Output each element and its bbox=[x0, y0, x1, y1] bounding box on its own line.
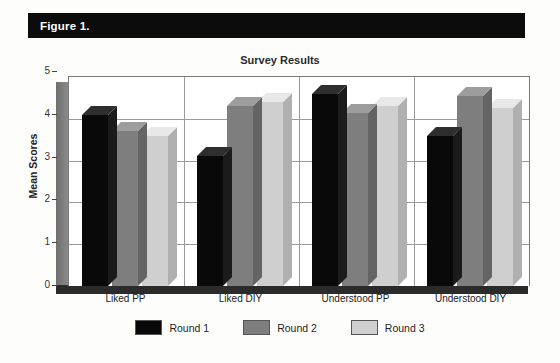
bar-side-face bbox=[168, 127, 177, 286]
legend-swatch bbox=[135, 320, 162, 335]
bar-front-face bbox=[197, 156, 223, 286]
legend-label: Round 2 bbox=[277, 322, 317, 334]
bar-side-face bbox=[513, 99, 522, 286]
chart-plot-wrapper: Mean Scores 012345 Liked PPLiked DIYUnde… bbox=[0, 0, 560, 363]
bar-side-face bbox=[108, 106, 117, 286]
x-axis-category-label: Understood PP bbox=[298, 293, 413, 304]
y-axis-tick-label: 5 bbox=[30, 65, 50, 76]
bar-side-face bbox=[483, 87, 492, 286]
y-axis-tick-label: 2 bbox=[30, 193, 50, 204]
y-axis-tick-mark bbox=[52, 157, 57, 158]
legend-label: Round 3 bbox=[385, 322, 425, 334]
category-separator bbox=[184, 77, 185, 286]
legend-swatch bbox=[351, 320, 378, 335]
legend-label: Round 1 bbox=[169, 322, 209, 334]
bar-side-face bbox=[368, 104, 377, 286]
y-axis-tick-label: 3 bbox=[30, 151, 50, 162]
y-axis-tick-label: 1 bbox=[30, 236, 50, 247]
y-axis-tick-mark bbox=[52, 71, 57, 72]
plot-area bbox=[68, 76, 530, 286]
y-axis-tick-label: 0 bbox=[30, 279, 50, 290]
bar-side-face bbox=[223, 147, 232, 286]
bar-round-1-liked-pp bbox=[82, 115, 108, 286]
legend-item[interactable]: Round 1 bbox=[135, 320, 209, 335]
y-axis-tick-mark bbox=[52, 242, 57, 243]
y-axis-tick-label: 4 bbox=[30, 108, 50, 119]
bar-round-1-liked-diy bbox=[197, 156, 223, 286]
x-axis-category-label: Understood DIY bbox=[413, 293, 528, 304]
y-axis-tick-mark bbox=[52, 199, 57, 200]
bar-round-1-understood-pp bbox=[312, 94, 338, 286]
bar-front-face bbox=[82, 115, 108, 286]
legend-swatch bbox=[243, 320, 270, 335]
bar-side-face bbox=[338, 85, 347, 286]
x-axis-category-label: Liked DIY bbox=[183, 293, 298, 304]
y-axis-label: Mean Scores bbox=[27, 106, 39, 226]
category-separator bbox=[414, 77, 415, 286]
axis-depth-wall bbox=[56, 82, 68, 285]
x-axis-category-label: Liked PP bbox=[68, 293, 183, 304]
bar-side-face bbox=[398, 97, 407, 286]
bar-side-face bbox=[253, 97, 262, 286]
legend-item[interactable]: Round 3 bbox=[351, 320, 425, 335]
y-axis-tick-mark bbox=[52, 285, 57, 286]
bar-side-face bbox=[138, 122, 147, 286]
legend-item[interactable]: Round 2 bbox=[243, 320, 317, 335]
y-axis-tick-mark bbox=[52, 114, 57, 115]
chart-legend: Round 1Round 2Round 3 bbox=[0, 320, 560, 335]
bar-side-face bbox=[453, 127, 462, 286]
category-separator bbox=[299, 77, 300, 286]
bar-side-face bbox=[283, 93, 292, 286]
bar-round-1-understood-diy bbox=[427, 136, 453, 286]
bar-front-face bbox=[427, 136, 453, 286]
bar-front-face bbox=[312, 94, 338, 286]
